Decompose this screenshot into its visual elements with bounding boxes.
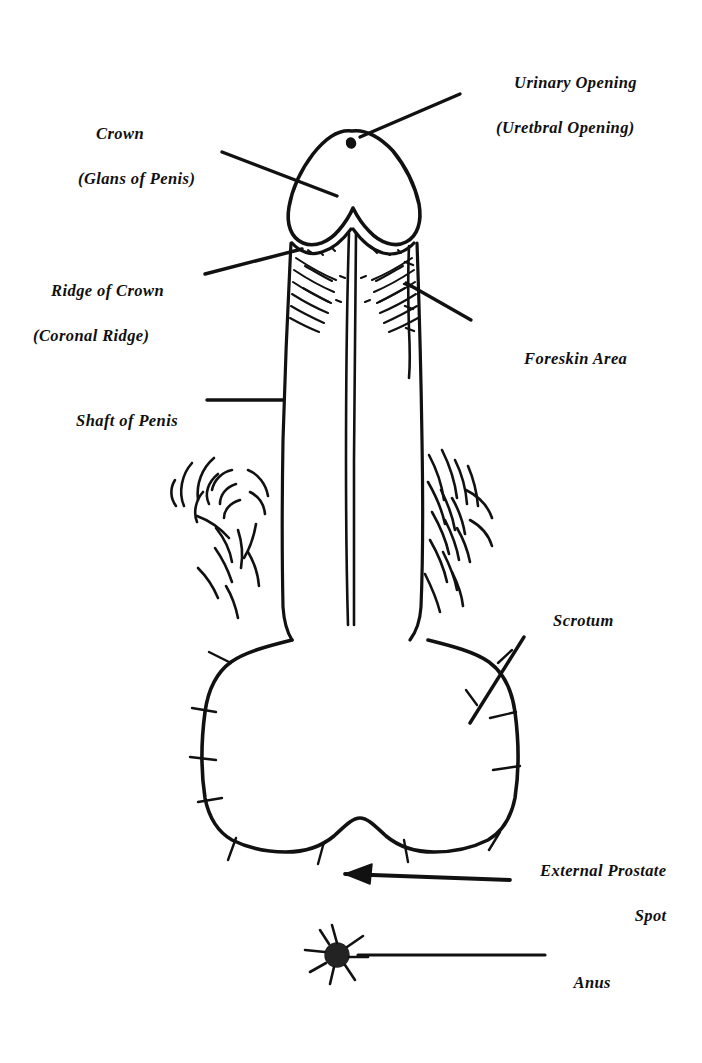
- shaft-median-raphe: [346, 233, 356, 625]
- label-scrotum-line1: Scrotum: [553, 611, 614, 630]
- label-crown: Crown (Glans of Penis): [78, 101, 195, 235]
- label-anus: Anus: [556, 950, 611, 1017]
- label-urinary-opening-line1: Urinary Opening: [514, 73, 637, 92]
- leader-ridge-of-crown: [205, 249, 302, 274]
- coronal-ridge: [292, 229, 414, 255]
- scrotum-outline: [202, 640, 518, 852]
- label-ridge-of-crown-line1: Ridge of Crown: [51, 281, 164, 300]
- scrotum-hair-ticks: [190, 650, 520, 864]
- label-shaft-of-penis: Shaft of Penis: [58, 388, 178, 455]
- label-urinary-opening-line2: (Uretbral Opening): [496, 117, 637, 139]
- label-ridge-of-crown: Ridge of Crown (Coronal Ridge): [33, 258, 164, 392]
- leader-urinary-opening: [360, 94, 460, 137]
- diagram-page: Urinary Opening (Uretbral Opening) Crown…: [0, 0, 702, 1063]
- foreskin-hatching-left: [290, 258, 345, 332]
- label-urinary-opening: Urinary Opening (Uretbral Opening): [496, 50, 637, 184]
- pubic-hair-right: [425, 450, 492, 612]
- label-crown-line2: (Glans of Penis): [78, 168, 195, 190]
- label-external-prostate-spot-line2: Spot: [522, 905, 667, 927]
- external-prostate-spot-arrow: [345, 864, 510, 884]
- urinary-opening-dot: [344, 136, 357, 150]
- label-foreskin-area: Foreskin Area: [506, 326, 627, 393]
- label-ridge-of-crown-line2: (Coronal Ridge): [33, 325, 164, 347]
- label-shaft-of-penis-line1: Shaft of Penis: [76, 411, 178, 430]
- label-crown-line1: Crown: [96, 124, 144, 143]
- label-external-prostate-spot-line1: External Prostate: [540, 861, 666, 880]
- label-anus-line1: Anus: [574, 973, 611, 992]
- leader-crown: [222, 152, 337, 196]
- label-foreskin-area-line1: Foreskin Area: [524, 349, 627, 368]
- leader-foreskin-area: [406, 283, 471, 320]
- label-scrotum: Scrotum: [535, 588, 614, 655]
- pubic-hair-left: [171, 458, 268, 618]
